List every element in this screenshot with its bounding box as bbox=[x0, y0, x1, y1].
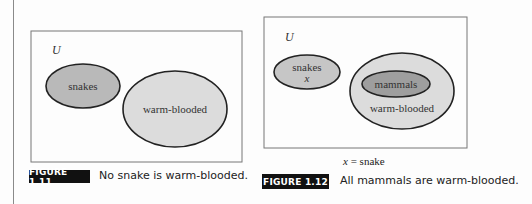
figure-1-11-caption: No snake is warm-blooded. bbox=[99, 169, 248, 182]
figure-1-11-label: FIGURE 1.11 bbox=[29, 170, 90, 183]
figure-1-12-diagram: U snakes x mammals warm-blooded bbox=[264, 17, 467, 148]
mammals-label: mammals bbox=[375, 78, 418, 90]
universe-label: U bbox=[52, 43, 62, 57]
snake-element-x: x bbox=[304, 72, 310, 84]
warm-blooded-label: warm-blooded bbox=[143, 103, 208, 115]
figure-1-12-label: FIGURE 1.12 bbox=[262, 174, 329, 189]
snakes-label: snakes bbox=[68, 80, 97, 92]
note-text: = snake bbox=[348, 155, 385, 167]
figure-1-12-note: x = snake bbox=[343, 155, 385, 167]
figure-1-12-caption: All mammals are warm-blooded. bbox=[340, 174, 519, 187]
universe-label: U bbox=[285, 30, 295, 44]
figure-1-11-diagram: U snakes warm-blooded bbox=[31, 31, 242, 162]
warm-blooded-label: warm-blooded bbox=[370, 102, 435, 114]
